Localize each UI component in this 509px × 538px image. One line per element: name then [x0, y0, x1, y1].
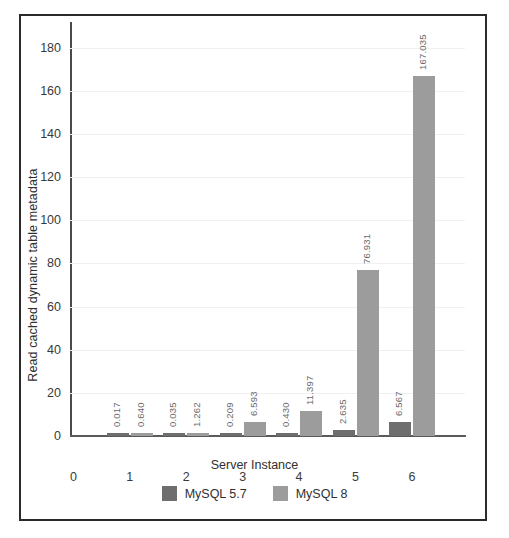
legend-swatch [273, 486, 288, 501]
bar[interactable]: 0.430 [276, 433, 298, 437]
y-axis-tick-label: 180 [40, 41, 70, 55]
y-axis-tick-label: 0 [54, 429, 70, 443]
legend-label: MySQL 8 [296, 487, 348, 501]
bar-value-label: 6.567 [393, 391, 404, 416]
x-axis-tick-label: 1 [126, 470, 133, 484]
y-axis-tick-label: 120 [40, 170, 70, 184]
bar[interactable]: 0.035 [163, 433, 185, 437]
legend-label: MySQL 5.7 [185, 487, 247, 501]
bar[interactable]: 0.209 [220, 433, 242, 437]
bar-value-label: 167.035 [417, 34, 428, 70]
bar[interactable]: 2.635 [333, 430, 355, 436]
bar[interactable]: 11.397 [300, 411, 322, 436]
y-axis-tick-label: 40 [47, 343, 70, 357]
bar-value-label: 0.035 [167, 402, 178, 427]
y-axis-tick-label: 20 [47, 386, 70, 400]
x-axis-tick-label: 3 [239, 470, 246, 484]
x-axis-tick-label: 5 [352, 470, 359, 484]
gridline [70, 177, 465, 178]
y-axis-tick-label: 80 [47, 256, 70, 270]
gridline [70, 393, 465, 394]
chart-figure: Read cached dynamic table metadata 02040… [0, 0, 509, 538]
bar[interactable]: 6.567 [389, 422, 411, 436]
bar[interactable]: 0.017 [107, 433, 129, 437]
bar-value-label: 0.640 [135, 402, 146, 427]
legend-item[interactable]: MySQL 8 [273, 486, 348, 501]
bar-value-label: 76.931 [361, 234, 372, 264]
bar-value-label: 0.209 [224, 402, 235, 427]
gridline [70, 220, 465, 221]
legend-item[interactable]: MySQL 5.7 [162, 486, 247, 501]
bar[interactable]: 0.640 [131, 433, 153, 437]
plot-area: 02040608010012014016018001234560.0170.64… [70, 26, 465, 436]
bar[interactable]: 76.931 [357, 270, 379, 436]
x-axis-tick-label: 4 [296, 470, 303, 484]
x-axis-label: Server Instance [0, 458, 509, 472]
bar[interactable]: 6.593 [244, 422, 266, 436]
y-axis-tick-label: 100 [40, 213, 70, 227]
y-axis-tick-label: 140 [40, 127, 70, 141]
bar-value-label: 2.635 [337, 400, 348, 425]
gridline [70, 307, 465, 308]
bar-value-label: 0.017 [111, 402, 122, 427]
gridline [70, 48, 465, 49]
gridline [70, 91, 465, 92]
bar-value-label: 6.593 [248, 391, 259, 416]
bar-value-label: 0.430 [280, 402, 291, 427]
bar[interactable]: 167.035 [413, 76, 435, 436]
y-axis-tick-label: 60 [47, 300, 70, 314]
x-axis-tick-label: 0 [70, 470, 77, 484]
bar-value-label: 11.397 [304, 376, 315, 406]
gridline [70, 350, 465, 351]
gridline [70, 263, 465, 264]
x-axis-tick-label: 2 [183, 470, 190, 484]
y-axis-tick-label: 160 [40, 84, 70, 98]
gridline [70, 134, 465, 135]
chart-legend: MySQL 5.7MySQL 8 [0, 486, 509, 501]
bar-value-label: 1.262 [191, 402, 202, 427]
legend-swatch [162, 486, 177, 501]
x-axis-tick-label: 6 [408, 470, 415, 484]
bar[interactable]: 1.262 [187, 433, 209, 437]
